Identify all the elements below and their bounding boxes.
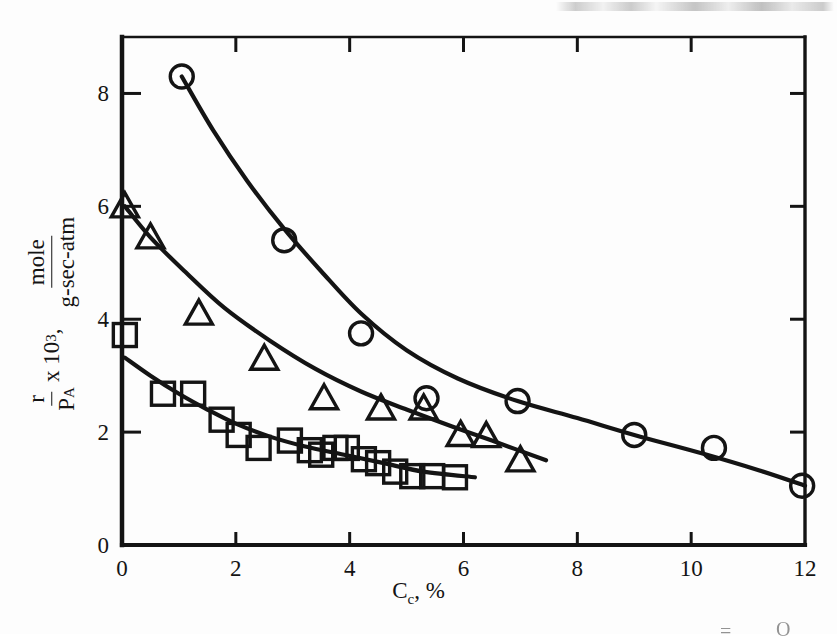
- curve-circles: [182, 77, 805, 486]
- y-tick-label: 8: [98, 81, 110, 106]
- x-tick-label: 0: [116, 556, 128, 581]
- axis-ticks: [122, 37, 805, 545]
- y-tick-label: 2: [98, 420, 110, 445]
- x-tick-label: 12: [794, 556, 817, 581]
- marker-circle: [350, 322, 373, 345]
- y-tick-label: 0: [98, 533, 110, 558]
- x-tick-label: 6: [458, 556, 470, 581]
- y-axis-tick-labels: 02468: [98, 81, 110, 558]
- marker-triangle: [311, 385, 338, 409]
- x-tick-label: 2: [230, 556, 242, 581]
- x-tick-label: 10: [680, 556, 703, 581]
- x-tick-label: 4: [344, 556, 356, 581]
- data-markers: [111, 65, 813, 497]
- y-tick-label: 4: [98, 307, 110, 332]
- marker-triangle: [185, 300, 212, 324]
- plot-frame: [122, 37, 805, 545]
- curve-triangles: [125, 206, 546, 460]
- marker-triangle: [251, 345, 278, 369]
- x-tick-label: 8: [572, 556, 584, 581]
- marker-square: [113, 324, 136, 347]
- x-axis-tick-labels: 024681012: [116, 556, 816, 581]
- y-tick-label: 6: [98, 194, 110, 219]
